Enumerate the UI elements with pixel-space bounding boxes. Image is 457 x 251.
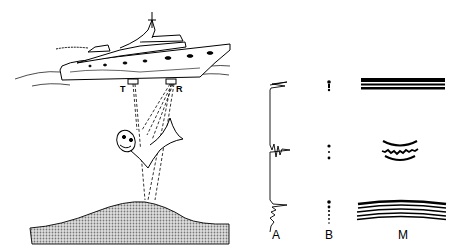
- panel-a-label: A: [272, 228, 280, 242]
- seabed: [30, 202, 229, 244]
- transmitter-label: T: [120, 84, 126, 94]
- transducers: [128, 79, 176, 84]
- fish: [114, 118, 183, 168]
- panel-a-trace: [270, 82, 290, 232]
- panel-m-label: M: [398, 228, 408, 242]
- receiver-label: R: [176, 84, 183, 94]
- ship: [56, 12, 230, 80]
- sonar-diagram: [0, 0, 457, 251]
- panel-b-dots: [327, 80, 331, 224]
- panel-b-label: B: [325, 228, 333, 242]
- panel-m-recording: [357, 78, 446, 220]
